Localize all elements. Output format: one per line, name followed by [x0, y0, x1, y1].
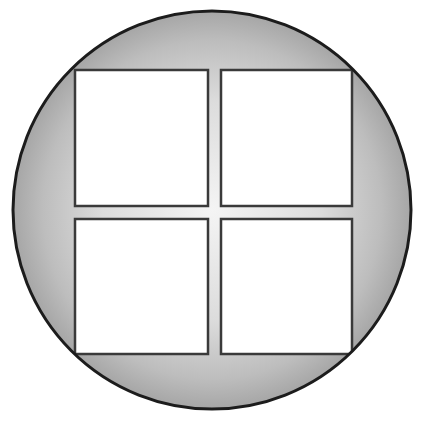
square-top-left — [75, 70, 208, 206]
diagram-canvas — [0, 0, 423, 425]
square-bottom-left — [75, 219, 208, 354]
square-bottom-right — [221, 219, 352, 354]
square-top-right — [221, 70, 352, 206]
